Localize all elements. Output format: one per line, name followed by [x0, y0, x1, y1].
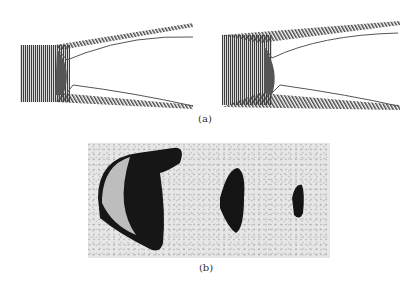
panel-b-label: (b)	[186, 262, 226, 273]
panel-a-label: (a)	[185, 113, 225, 124]
panel-a-left-simulation	[15, 15, 200, 110]
panel-b-photo-2	[198, 143, 270, 258]
panel-b-photo-1	[88, 143, 198, 258]
simulation-right-graphic	[220, 15, 405, 110]
medium-dark-shape	[198, 143, 270, 258]
simulation-left-graphic	[15, 15, 200, 110]
panel-b-photo-3	[270, 143, 330, 258]
small-dark-shape	[270, 143, 330, 258]
panel-a-right-simulation	[220, 15, 405, 110]
large-dark-shape	[88, 143, 198, 258]
